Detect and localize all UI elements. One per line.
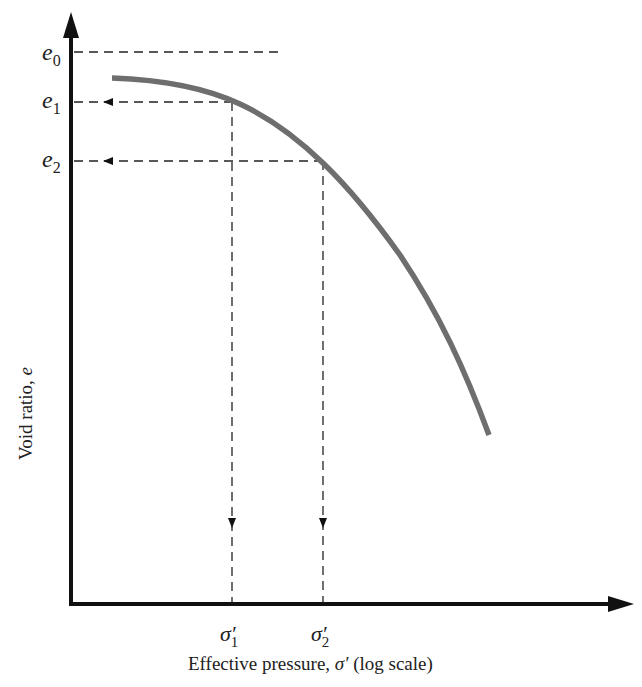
sigma2-arrow-icon bbox=[319, 518, 327, 528]
e-log-p-curve bbox=[112, 78, 489, 435]
y-axis bbox=[63, 12, 79, 606]
e1-label: e1 bbox=[42, 87, 61, 117]
consolidation-diagram: e0 e1 e2 σ′1 σ′2 Effective pressure, σ′ … bbox=[0, 0, 642, 687]
y-axis-arrow-icon bbox=[63, 12, 79, 38]
e2-label: e2 bbox=[42, 146, 61, 176]
e1-arrow-icon bbox=[103, 98, 113, 106]
sigma2-label: σ′2 bbox=[311, 621, 329, 650]
y-axis-title: Void ratio, e bbox=[15, 367, 36, 460]
diagram-svg: e0 e1 e2 σ′1 σ′2 Effective pressure, σ′ … bbox=[0, 0, 642, 687]
x-axis bbox=[69, 596, 634, 612]
e0-label: e0 bbox=[42, 39, 61, 69]
x-axis-title: Effective pressure, σ′ (log scale) bbox=[188, 653, 433, 675]
sigma1-label: σ′1 bbox=[220, 621, 238, 650]
sigma1-arrow-icon bbox=[228, 518, 236, 528]
guide-arrows bbox=[103, 98, 327, 528]
x-axis-arrow-icon bbox=[608, 596, 634, 612]
e2-arrow-icon bbox=[103, 157, 113, 165]
